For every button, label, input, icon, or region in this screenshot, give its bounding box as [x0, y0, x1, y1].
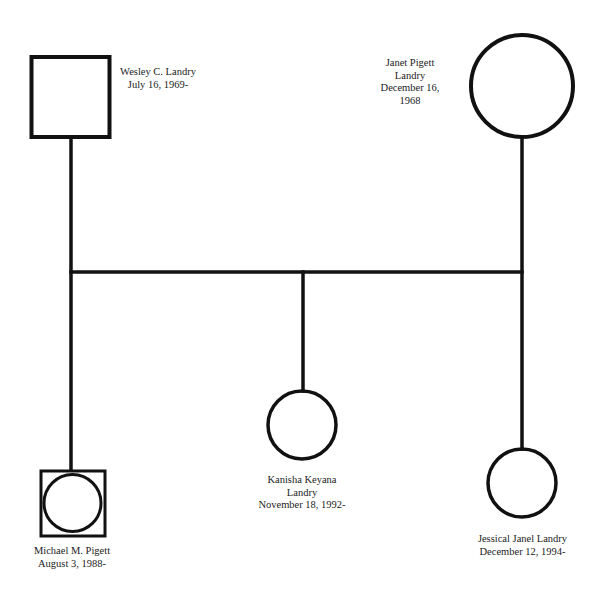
janet-circle-symbol: [471, 35, 573, 137]
michael-name: Michael M. Pigett: [12, 545, 132, 558]
janet-dates-line-1: December 16,: [380, 82, 440, 95]
wesley-label: Wesley C. Landry July 16, 1969-: [98, 66, 218, 91]
kanisha-label: Kanisha Keyana Landry November 18, 1992-: [242, 474, 362, 512]
jessical-name: Jessical Janel Landry: [460, 533, 585, 546]
michael-circle-symbol: [44, 475, 101, 532]
michael-square-symbol: [41, 471, 105, 536]
janet-name-line-1: Janet Pigett: [380, 57, 440, 70]
kanisha-dates: November 18, 1992-: [242, 499, 362, 512]
janet-label: Janet Pigett Landry December 16, 1968: [380, 57, 440, 107]
michael-label: Michael M. Pigett August 3, 1988-: [12, 545, 132, 570]
janet-name-line-2: Landry: [380, 70, 440, 83]
kanisha-name-line-2: Landry: [242, 487, 362, 500]
janet-dates-line-2: 1968: [380, 95, 440, 108]
wesley-name: Wesley C. Landry: [98, 66, 218, 79]
jessical-label: Jessical Janel Landry December 12, 1994-: [460, 533, 585, 558]
michael-dates: August 3, 1988-: [12, 558, 132, 571]
jessical-dates: December 12, 1994-: [460, 546, 585, 559]
jessical-circle-symbol: [488, 449, 556, 517]
kanisha-circle-symbol: [268, 391, 336, 459]
wesley-dates: July 16, 1969-: [98, 79, 218, 92]
kanisha-name-line-1: Kanisha Keyana: [242, 474, 362, 487]
